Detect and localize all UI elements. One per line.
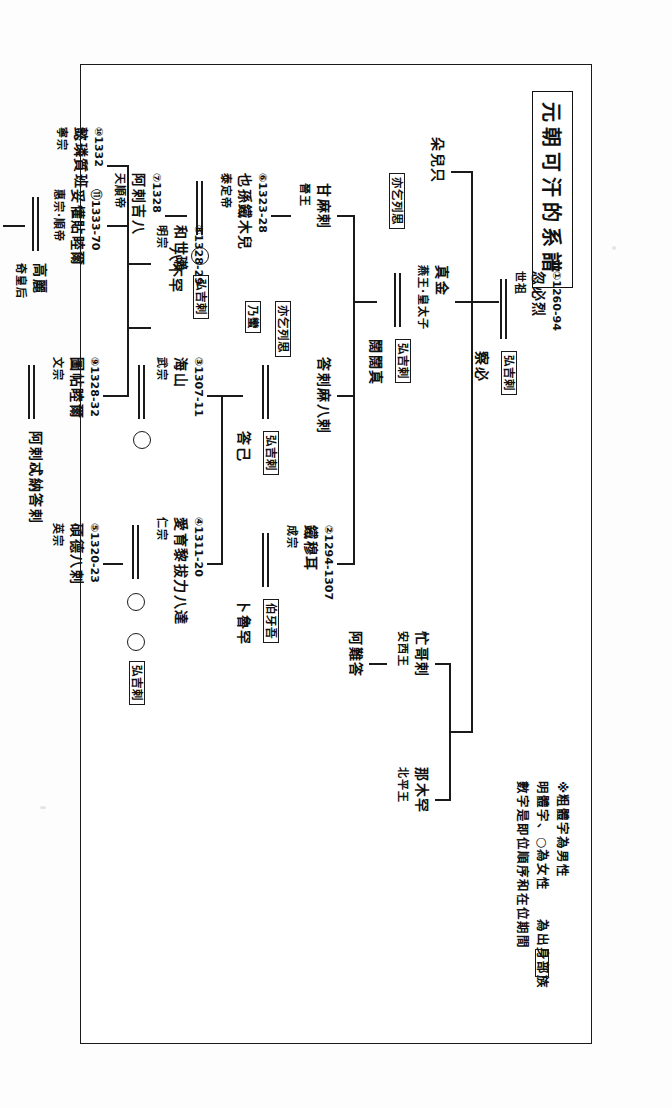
person-khayishan: ③1307-11 海山 武宗 — [155, 357, 205, 417]
tribe-box-hongjila-2: 弘吉剌 — [395, 339, 411, 383]
line-darmabala-descent — [223, 395, 243, 397]
tribe-box-boyawu: 伯牙吾 — [263, 599, 279, 643]
tribe-box-hongjila-3: 亦乞列思 — [389, 173, 405, 229]
line-to-ayurbarwada — [207, 563, 223, 565]
line-to-temur — [337, 563, 355, 565]
person-gamala: 甘麻剌 晉王 — [298, 183, 335, 230]
person-shidibala-name: 碩德八剌 — [68, 523, 88, 585]
line-to-ayushiridara — [3, 225, 25, 227]
person-zhenjin: 真金 燕王·皇太子 — [416, 265, 453, 330]
person-ayurbarwada: ④1311-20 愛育黎拔力八達 仁宗 — [155, 517, 205, 626]
female-circle-ayurbarwada-consort — [127, 593, 145, 611]
line-to-toghon-temur — [107, 225, 129, 227]
person-yesun-temur: ⑥1323-28 也孫鐵木兒 泰定帝 — [219, 173, 269, 251]
person-mangala-name: 忙哥剌 — [413, 631, 433, 678]
person-khoshila-posthumous: 明宗 — [155, 225, 171, 285]
person-toghon-temur: ⑪1333-70 妥懽貼睦爾 惠宗·順帝 — [52, 189, 105, 267]
line-to-right-branch — [451, 731, 473, 733]
rotated-chart-stage: 元朝可汗的系譜 ※粗體字為男性 明體字、○為女性 為出身部族 數字是即位順序和在… — [56, 50, 616, 1058]
line-khoshila-children-bus — [127, 165, 129, 263]
page-title: 元朝可汗的系譜 — [532, 91, 573, 288]
person-darmabala: 答剌麻八剌 — [315, 357, 335, 435]
line-to-khoshila — [129, 263, 151, 265]
person-khayishan-posthumous: 武宗 — [155, 357, 171, 417]
line-to-zhenjin — [455, 301, 473, 303]
line-kublai-descent — [473, 301, 499, 303]
person-tugh-temur: ⑨1328-32 圖帖睦爾 文宗 — [51, 357, 101, 419]
female-circle-budashiri — [127, 633, 145, 651]
person-aratnadara-name: 阿剌忒納答剌 — [27, 431, 47, 524]
tribe-box-hongjila-1: 弘吉剌 — [501, 351, 517, 395]
person-shidibala-posthumous: 英宗 — [51, 523, 67, 585]
person-ananda: 阿難答 — [347, 631, 367, 678]
person-gamala-name: 甘麻剌 — [315, 183, 335, 230]
person-toghon-temur-posthumous: 惠宗·順帝 — [52, 189, 68, 267]
person-buluhan-name: 卜魯罕 — [235, 599, 255, 646]
person-shidibala: ⑤1320-23 碩德八剌 英宗 — [51, 523, 101, 585]
person-khoshila-name: 和世瓎 — [172, 225, 192, 285]
tribe-box-hongjila-4: 弘吉剌 — [263, 431, 279, 475]
person-shidibala-reign: ⑤1320-23 — [88, 523, 101, 585]
person-tugh-temur-posthumous: 文宗 — [51, 357, 67, 419]
person-tugh-temur-reign: ⑨1328-32 — [88, 357, 101, 419]
person-kublai-name: 忽必烈 — [530, 271, 550, 331]
legend-line-3: 數字是即位順序和在位期間 — [513, 781, 531, 949]
tribe-box-yiqilisi: 亦乞列思 — [275, 301, 291, 357]
person-kublai: ①1260-94 忽必烈 世祖 — [513, 271, 563, 331]
person-dagi: 答己 — [235, 431, 255, 462]
person-nomukhan: 那木罕 北平王 — [396, 767, 433, 814]
line-gamala-descent — [271, 215, 291, 217]
person-khayishan-reign: ③1307-11 — [192, 357, 205, 417]
person-empress-qi-title: 奇皇后 — [14, 263, 30, 299]
person-temur-reign: ②1294-1307 — [322, 525, 335, 600]
line-khayishan-children-bus — [127, 263, 129, 395]
scan-speck — [612, 246, 616, 250]
line-kublai-children-bus — [471, 171, 473, 731]
person-yesun-temur-reign: ⑥1323-28 — [256, 173, 269, 251]
person-khayishan-name: 海山 — [172, 357, 192, 417]
person-temur-posthumous: 成宗 — [285, 525, 301, 600]
person-zhenjin-name: 真金 — [433, 265, 453, 330]
person-kublai-reign: ①1260-94 — [550, 271, 563, 331]
person-dagi-name: 答己 — [235, 431, 255, 462]
line-darmabala-children-bus — [221, 395, 223, 563]
line-to-darmabala — [337, 395, 355, 397]
tribe-box-hongjila-5: 弘吉剌 — [129, 661, 145, 705]
person-zhenjin-posthumous: 燕王·皇太子 — [416, 265, 432, 330]
person-darmabala-name: 答剌麻八剌 — [315, 357, 335, 435]
line-to-nomukhan — [435, 799, 451, 801]
person-irinjibal-posthumous: 寧宗 — [55, 127, 71, 189]
person-ananda-name: 阿難答 — [347, 631, 367, 678]
person-khoshila: ⑧1328-29 和世瓎 明宗 — [155, 225, 205, 285]
scanned-page: 元朝可汗的系譜 ※粗體字為男性 明體字、○為女性 為出身部族 數字是即位順序和在… — [0, 0, 672, 1108]
person-duorzhi-name: 朵兒只 — [429, 137, 449, 184]
person-ragibag-name: 阿剌吉八 — [130, 173, 150, 235]
line-to-khayishan — [207, 395, 223, 397]
person-ayurbarwada-reign: ④1311-20 — [192, 517, 205, 626]
line-khayishan-descent — [129, 327, 151, 329]
person-buluhan: 卜魯罕 — [235, 599, 255, 646]
person-temur: ②1294-1307 鐵穆耳 成宗 — [285, 525, 335, 600]
person-gamala-posthumous: 晉王 — [298, 183, 314, 230]
person-empress-qi: 高麗 奇皇后 — [14, 263, 51, 299]
line-to-shidibala — [103, 563, 123, 565]
person-ayushiridara: 愛猷識理達臘 昭宗 — [0, 183, 1, 276]
person-toghon-temur-name: 妥懽貼睦爾 — [69, 189, 89, 267]
person-kokejin-name: 闊闊真 — [367, 339, 387, 386]
female-circle-khayishan-consort — [133, 431, 151, 449]
person-toghon-temur-reign: ⑪1333-70 — [89, 189, 105, 267]
person-chabi: 察必 — [473, 351, 493, 382]
line-right-branch-bus — [449, 663, 451, 799]
person-khoshila-reign: ⑧1328-29 — [192, 225, 205, 285]
person-ayurbarwada-name: 愛育黎拔力八達 — [172, 517, 192, 626]
person-irinjibal: ⑩1332 懿璘質班 寧宗 — [55, 127, 105, 189]
legend-line-1: ※粗體字為男性 — [553, 781, 571, 878]
legend-tribe-box-icon — [535, 949, 549, 977]
person-duorzhi: 朵兒只 — [429, 137, 449, 184]
scan-speck — [40, 806, 46, 809]
person-irinjibal-name: 懿璘質班 — [72, 127, 92, 189]
person-ayushiridara-name: 愛猷識理達臘 — [0, 183, 1, 276]
line-zhenjin-children-bus — [353, 215, 355, 563]
line-to-irinjibal — [107, 165, 129, 167]
person-aratnadara: 阿剌忒納答剌 — [27, 431, 47, 524]
